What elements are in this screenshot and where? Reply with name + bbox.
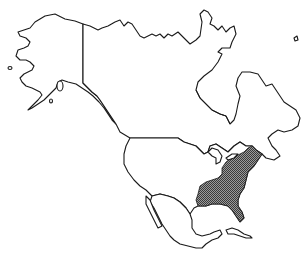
alaska-island bbox=[8, 67, 12, 70]
alaska-inlet bbox=[57, 81, 63, 91]
cuba bbox=[226, 228, 252, 238]
north-america-map bbox=[0, 0, 304, 255]
canada bbox=[83, 10, 300, 160]
arctic-island bbox=[294, 36, 298, 41]
kodiak-island bbox=[50, 99, 53, 103]
